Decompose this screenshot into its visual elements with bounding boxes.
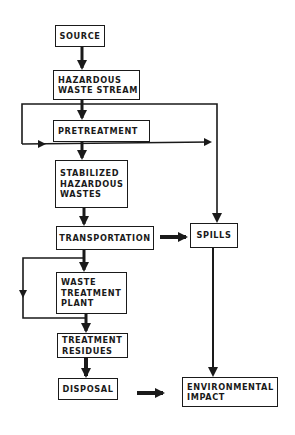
node-treatment-residues: TREATMENT RESIDUES (57, 333, 128, 358)
node-waste-treatment-plant: WASTE TREATMENT PLANT (56, 272, 127, 314)
node-environmental-impact: ENVIRONMENTAL IMPACT (182, 377, 278, 407)
node-label: TRANSPORTATION (59, 233, 150, 244)
node-label: TREATMENT (61, 288, 122, 299)
node-label: WASTES (60, 189, 123, 200)
node-label: HAZARDOUS (60, 179, 123, 190)
node-source: SOURCE (55, 25, 105, 47)
node-label: ENVIRONMENTAL (187, 382, 273, 393)
node-label: WASTE STREAM (58, 85, 135, 96)
node-label: TREATMENT (62, 335, 123, 346)
node-label: HAZARDOUS (58, 75, 135, 86)
node-stabilized-hazardous-wastes: STABILIZED HAZARDOUS WASTES (55, 160, 128, 208)
node-hazardous-waste-stream: HAZARDOUS WASTE STREAM (53, 70, 140, 100)
node-transportation: TRANSPORTATION (56, 226, 154, 250)
node-label: DISPOSAL (63, 384, 114, 395)
flowchart-canvas: SOURCE HAZARDOUS WASTE STREAM PRETREATME… (0, 0, 295, 435)
node-label: SOURCE (60, 31, 101, 42)
connector-layer (0, 0, 295, 435)
node-label: PRETREATMENT (58, 126, 145, 137)
node-spills: SPILLS (190, 223, 238, 248)
node-label: WASTE (61, 277, 122, 288)
node-label: RESIDUES (62, 346, 123, 357)
node-label: IMPACT (187, 392, 273, 403)
node-disposal: DISPOSAL (58, 378, 118, 400)
node-pretreatment: PRETREATMENT (53, 120, 150, 142)
node-label: STABILIZED (60, 168, 123, 179)
node-label: SPILLS (197, 230, 232, 241)
node-label: PLANT (61, 298, 122, 309)
